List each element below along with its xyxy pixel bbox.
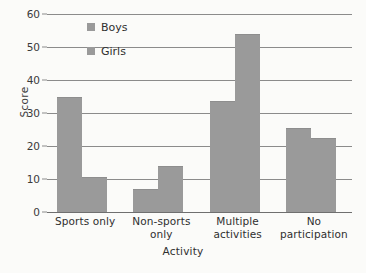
y-tick-label-60: 60 (0, 8, 40, 20)
legend-label-girls: Girls (101, 45, 126, 58)
x-tick-label-3: Noparticipation (266, 215, 362, 241)
bar-girls-2 (235, 34, 260, 212)
y-tick-label-0: 0 (0, 206, 40, 218)
bar-boys-1 (133, 189, 158, 212)
y-tick-label-20: 20 (0, 140, 40, 152)
legend-swatch-icon (87, 47, 95, 55)
y-tick-label-50: 50 (0, 41, 40, 53)
bar-boys-3 (286, 128, 311, 212)
bar-boys-2 (210, 101, 235, 212)
y-tick-label-10: 10 (0, 173, 40, 185)
gridline-0 (47, 212, 352, 213)
bar-girls-1 (158, 166, 183, 212)
legend: Boys Girls (87, 18, 177, 66)
legend-swatch-icon (87, 23, 95, 31)
bar-chart: Score 0102030405060 Boys Girls Sports on… (0, 0, 366, 273)
x-axis-title: Activity (0, 245, 366, 257)
bar-girls-3 (311, 138, 336, 212)
legend-label-boys: Boys (101, 21, 128, 34)
legend-item-girls: Girls (87, 42, 177, 60)
y-axis-ticks: 0102030405060 (0, 14, 40, 212)
bar-boys-0 (57, 97, 82, 213)
legend-item-boys: Boys (87, 18, 177, 36)
y-tick-label-40: 40 (0, 74, 40, 86)
y-tick-label-30: 30 (0, 107, 40, 119)
bar-girls-0 (82, 177, 107, 212)
